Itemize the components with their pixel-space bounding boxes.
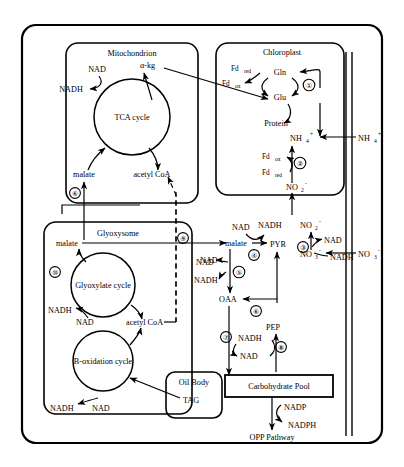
no2-cytosol-sup: - [319,218,321,224]
mito-malate-label: malate [73,170,95,179]
nh4-external-label: NH [358,134,370,143]
no2-chloroplast-sup: - [305,180,307,186]
no2-chloroplast-label: NO [286,183,298,192]
no3-cytosol-sup: - [319,247,321,253]
fd-ox-bot-sub: ox [275,156,281,162]
step-9-label: ⑨ [180,234,186,243]
nh4-chloroplast-sup: + [310,131,313,137]
glyoxysome-nad-label: NAD [76,318,94,327]
glu-label: Glu [274,93,286,102]
no3-cytosol-label: NO [300,250,312,259]
no3-cytosol-sub: 3 [315,254,318,260]
step-10-label: ⑩ [52,268,58,277]
mito-acetyl-coa-label: acetyl CoA [133,170,170,179]
mito-nad-label: NAD [88,65,106,74]
nadph-label: NADPH [288,421,316,430]
mitochondrion-label: Mitochondrion [107,49,156,58]
cytosol-nadh-top-label: NADH [258,221,282,230]
nitrate-red-nad-label: NAD [324,236,342,245]
pathway-diagram: Mitochondrion TCA cycle NAD NADH α-kg ma… [0,0,404,467]
no2-chloroplast-sub: 2 [301,187,304,193]
step-6-label: ⑥ [253,307,259,316]
no2-cytosol-sub: 2 [315,225,318,231]
step-7-label: ⑦ [223,333,229,342]
cytosol-nadh-left-label: NADH [194,276,218,285]
oaa-label: OAA [219,295,237,304]
glyoxysome-boundary [44,222,192,414]
glyoxysome-label: Glyoxysome [97,229,139,238]
cytosol-nadh-bot-label: NADH [238,334,262,343]
glyoxysome-malate-label: malate [56,239,78,248]
glyoxylate-cycle-label: Glyoxylate cycle [75,281,131,290]
alpha-kg-label: α-kg [140,61,155,70]
diagram-canvas: Mitochondrion TCA cycle NAD NADH α-kg ma… [0,0,404,467]
beta-ox-nadh-label: NADH [50,404,74,413]
step-4-label: ④ [251,251,257,260]
fd-red-top-label: Fd [231,65,239,73]
fd-red-bot-label: Fd [262,169,270,177]
step-1-label: ① [306,81,312,90]
cytosol-nad-top-label: NAD [232,223,250,232]
nh4-chloroplast-label: NH [290,134,302,143]
step-5-label: ⑤ [236,268,242,277]
fd-ox-top-sub: ox [235,83,241,89]
tca-cycle-label: TCA cycle [114,113,150,122]
nh4-external-sup: + [378,131,381,137]
glyoxysome-nadh-label: NADH [48,306,72,315]
no3-external-label: NO [358,250,370,259]
opp-pathway-label: OPP Pathway [250,433,296,442]
nh4-external-sub: 4 [374,138,377,144]
gln-label: Gln [274,68,286,77]
glyoxysome-acetyl-coa-label: acetyl CoA [126,318,163,327]
step-6-mito-label: ⑥ [72,189,78,198]
pep-label: PEP [266,323,281,332]
no2-cytosol-label: NO [300,221,312,230]
fd-ox-bot-label: Fd [262,153,270,161]
beta-ox-nad-label: NAD [92,404,110,413]
tag-label: TAG [183,396,199,405]
cytosol-nad-bot-label: NAD [240,352,258,361]
mitochondrion-boundary [66,43,198,203]
nh4-chloroplast-sub: 4 [306,138,309,144]
step-2-label: ② [297,159,303,168]
no3-external-sup: - [378,247,380,253]
oil-body-label: Oil Body [179,378,210,387]
step-8-label: ⑧ [278,343,284,352]
pyr-label: PYR [270,240,286,249]
step9-nad-label: NAD [196,258,214,267]
nadp-label: NADP [284,403,307,412]
beta-oxidation-label: B-oxidation cycle [74,357,133,366]
cytosol-malate-label: malate [225,239,247,248]
chloroplast-label: Chloroplast [263,48,302,57]
fd-red-top-sub: red [244,68,251,74]
no3-external-sub: 3 [374,254,377,260]
carbohydrate-pool-label: Carbohydrate Pool [248,382,310,391]
mito-nadh-label: NADH [59,85,83,94]
nitrate-red-nadh-label: NADH [330,253,354,262]
fd-red-bot-sub: red [275,172,282,178]
